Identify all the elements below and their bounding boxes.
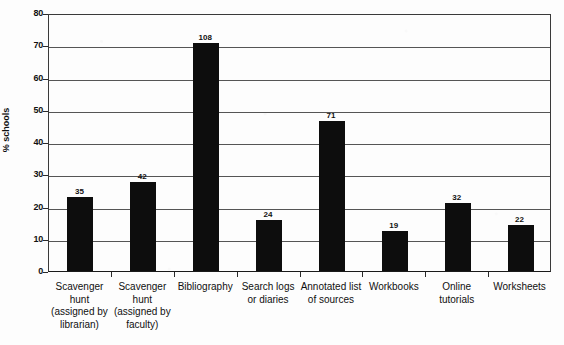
bar-value-label: 71 [306, 111, 356, 120]
bar [256, 220, 282, 271]
x-axis-category-label: Workbooks [358, 281, 429, 294]
x-axis-category-label: Scavenger hunt (assigned by librarian) [44, 281, 115, 331]
chart-page: % schools 35421082471193222 010203040506… [0, 0, 564, 345]
bar [130, 182, 156, 271]
x-axis-tick-mark [237, 272, 238, 277]
bar-value-label: 35 [54, 187, 104, 196]
x-axis-category-label: Worksheets [484, 281, 555, 294]
bar-value-label: 22 [495, 215, 545, 224]
gridline [49, 144, 550, 145]
x-axis-tick-mark [300, 272, 301, 277]
y-axis-tick-mark [43, 240, 48, 241]
x-axis-tick-mark [362, 272, 363, 277]
gridline [49, 47, 550, 48]
gridline [49, 112, 550, 113]
y-axis-tick-label: 50 [3, 105, 43, 115]
bar-value-label: 19 [369, 221, 419, 230]
bar [67, 197, 93, 271]
x-axis-tick-mark [425, 272, 426, 277]
bar [445, 203, 471, 271]
x-axis-category-label: Search logs or diaries [233, 281, 304, 306]
bar-value-label: 32 [432, 193, 482, 202]
x-axis-category-label: Bibliography [170, 281, 241, 294]
y-axis-tick-label: 60 [3, 73, 43, 83]
y-axis-tick-label: 30 [3, 169, 43, 179]
y-axis-tick-mark [43, 175, 48, 176]
y-axis-tick-mark [43, 143, 48, 144]
gridline [49, 80, 550, 81]
y-axis-tick-label: 70 [3, 40, 43, 50]
plot-area [48, 14, 551, 272]
y-axis-tick-mark [43, 208, 48, 209]
x-axis-category-label: Annotated list of sources [296, 281, 367, 306]
y-axis-tick-label: 0 [3, 266, 43, 276]
bar-value-label: 24 [243, 210, 293, 219]
x-axis-tick-mark [488, 272, 489, 277]
y-axis-tick-label: 80 [3, 8, 43, 18]
bar [193, 43, 219, 271]
y-axis-tick-mark [43, 79, 48, 80]
bar-value-label: 42 [117, 172, 167, 181]
y-axis-tick-mark [43, 272, 48, 273]
bar [382, 231, 408, 271]
gridline [49, 241, 550, 242]
bar [319, 121, 345, 271]
y-axis-tick-mark [43, 14, 48, 15]
y-axis-tick-label: 10 [3, 234, 43, 244]
y-axis-tick-mark [43, 46, 48, 47]
x-axis-category-label: Scavenger hunt (assigned by faculty) [107, 281, 178, 331]
y-axis-tick-label: 40 [3, 137, 43, 147]
x-axis-tick-mark [174, 272, 175, 277]
y-axis-tick-label: 20 [3, 202, 43, 212]
gridline [49, 209, 550, 210]
y-axis-tick-mark [43, 111, 48, 112]
x-axis-tick-mark [111, 272, 112, 277]
bar [508, 225, 534, 271]
bar-value-label: 108 [180, 33, 230, 42]
x-axis-category-label: Online tutorials [421, 281, 492, 306]
